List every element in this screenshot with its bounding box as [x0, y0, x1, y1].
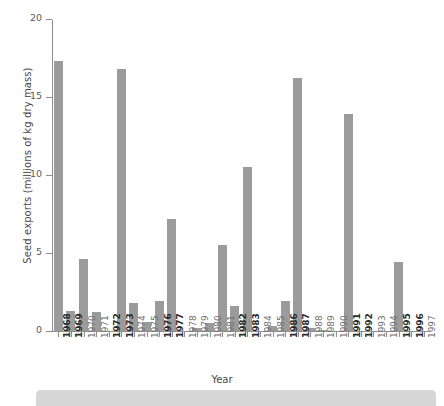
x-tick-label: 1975 — [150, 315, 160, 338]
x-tick-label: 1982 — [238, 313, 248, 338]
x-tick-label: 1983 — [251, 313, 261, 338]
y-tick: 10 — [46, 175, 52, 176]
bar — [344, 114, 353, 331]
x-tick-label: 1997 — [427, 315, 437, 338]
x-tick-label: 1991 — [352, 313, 362, 338]
bar — [117, 69, 126, 331]
x-tick-label: 1977 — [175, 313, 185, 338]
footer-decoration-bar — [36, 390, 436, 406]
x-tick-label: 1989 — [326, 315, 336, 338]
x-tick-label: 1981 — [226, 315, 236, 338]
y-tick-label: 15 — [30, 90, 42, 101]
x-tick-label: 1979 — [200, 315, 210, 338]
x-tick-label: 1976 — [163, 313, 173, 338]
x-tick-label: 1973 — [125, 313, 135, 338]
x-tick-label: 1996 — [415, 313, 425, 338]
bar — [54, 61, 63, 331]
x-tick-label: 1971 — [100, 315, 110, 338]
y-tick-label: 20 — [30, 12, 42, 23]
plot-area: 05101520 — [52, 20, 430, 332]
x-tick-label: 1995 — [402, 313, 412, 338]
x-tick-label: 1984 — [263, 315, 273, 338]
x-tick-label: 1972 — [112, 313, 122, 338]
x-tick-label: 1974 — [137, 315, 147, 338]
y-tick: 0 — [46, 331, 52, 332]
y-tick: 5 — [46, 253, 52, 254]
y-tick: 20 — [46, 19, 52, 20]
x-tick-label: 1990 — [339, 315, 349, 338]
x-tick-label: 1986 — [289, 313, 299, 338]
x-tick-label: 1992 — [364, 313, 374, 338]
y-tick: 15 — [46, 97, 52, 98]
y-axis-title: Seed exports (millions of kg dry mass) — [22, 51, 33, 281]
x-tick-label: 1988 — [314, 315, 324, 338]
x-tick-label: 1994 — [389, 315, 399, 338]
x-tick-label: 1993 — [377, 315, 387, 338]
bar — [293, 78, 302, 331]
x-tick-label: 1985 — [276, 315, 286, 338]
x-tick-label: 1969 — [74, 313, 84, 338]
x-tick-label: 1987 — [301, 313, 311, 338]
bar — [243, 167, 252, 331]
y-tick-label: 0 — [36, 324, 42, 335]
x-tick-label: 1968 — [62, 313, 72, 338]
x-axis-title: Year — [0, 374, 444, 385]
y-tick-label: 10 — [30, 168, 42, 179]
y-tick-label: 5 — [36, 246, 42, 257]
x-tick-label: 1980 — [213, 315, 223, 338]
x-tick-label: 1978 — [188, 315, 198, 338]
x-tick — [58, 332, 59, 337]
x-tick-label: 1970 — [87, 315, 97, 338]
